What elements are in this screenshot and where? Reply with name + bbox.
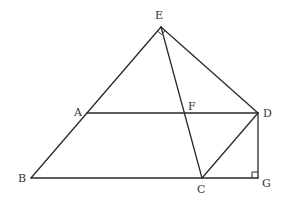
label-G: G [262, 177, 271, 190]
right-angle-mark-E [158, 31, 166, 35]
label-D: D [263, 107, 272, 120]
segment-EC [161, 27, 202, 178]
segment-EB [31, 27, 161, 178]
label-A: A [73, 106, 83, 119]
label-C: C [197, 183, 205, 196]
label-E: E [155, 9, 163, 22]
right-angle-mark-G [252, 172, 258, 178]
segment-ED [161, 27, 258, 113]
label-F: F [188, 100, 196, 113]
segment-CD [202, 113, 258, 178]
label-B: B [18, 172, 26, 185]
geometry-diagram: E A F D B C G [0, 0, 286, 202]
